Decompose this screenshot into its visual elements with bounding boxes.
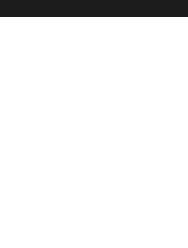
fretboard-grid [0,0,188,248]
